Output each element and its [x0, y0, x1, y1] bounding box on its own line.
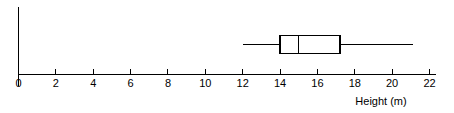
- x-axis-tick-label: 16: [311, 78, 323, 89]
- x-axis-tick-label: 14: [274, 78, 286, 89]
- x-axis-tick-label: 12: [237, 78, 249, 89]
- x-axis-tick-label: 10: [199, 78, 211, 89]
- box-whisker-glyph: [243, 36, 413, 54]
- x-axis-tick-label: 2: [53, 78, 59, 89]
- x-axis-tick-label: 8: [165, 78, 171, 89]
- x-axis-title: Height (m): [355, 96, 406, 107]
- x-axis-tick-label: 6: [128, 78, 134, 89]
- interquartile-box: [280, 36, 340, 54]
- box-plot-figure: 0246810121416182022 Height (m): [0, 0, 454, 113]
- x-axis-tick-label: 0: [15, 78, 21, 89]
- x-axis-tick-label: 22: [423, 78, 435, 89]
- x-axis-ticks: [19, 69, 430, 75]
- x-axis-tick-label: 18: [349, 78, 361, 89]
- x-axis-tick-label: 20: [386, 78, 398, 89]
- x-axis-tick-label: 4: [90, 78, 96, 89]
